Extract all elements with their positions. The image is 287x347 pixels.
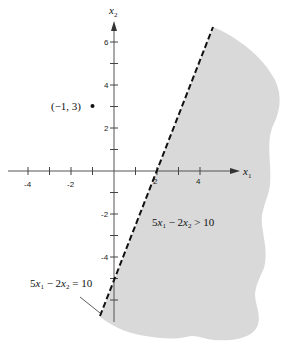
- point-marker: [91, 104, 95, 108]
- y-tick-label: 2: [104, 124, 109, 133]
- region-inequality-label: 5x1 − 2x2 > 10: [152, 216, 215, 230]
- point-label: (−1, 3): [51, 100, 81, 113]
- inequality-graph: -4 -2 2 4 6 4 2 -2 -4 x2 x1 (−1, 3) 5x1 …: [0, 0, 287, 347]
- y-tick-label: 4: [104, 81, 109, 90]
- x-tick-label: -4: [24, 180, 32, 189]
- y-tick-label: -4: [101, 253, 109, 262]
- y-tick-label: -2: [101, 210, 109, 219]
- y-axis-arrow-icon: [111, 21, 117, 31]
- x-tick-label: -2: [67, 180, 75, 189]
- boundary-equation-label: 5x1 − 2x2 = 10: [30, 277, 93, 291]
- leader-line: [80, 297, 100, 313]
- y-axis-label: x2: [108, 4, 118, 19]
- shaded-region: [100, 27, 280, 340]
- y-tick-label: 6: [104, 38, 109, 47]
- x-tick-label: 4: [196, 177, 201, 186]
